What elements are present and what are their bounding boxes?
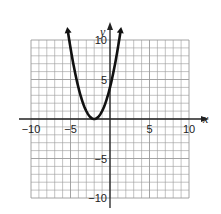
y-tick-label: −10 bbox=[88, 192, 107, 204]
axes bbox=[19, 22, 209, 208]
x-tick-label: −5 bbox=[64, 123, 77, 135]
arrowhead-icon bbox=[65, 27, 72, 33]
x-tick-label: 10 bbox=[183, 123, 195, 135]
y-axis-label: y bbox=[99, 25, 106, 39]
curve-arrowheads bbox=[65, 27, 124, 33]
coordinate-plane: −10−5510105−5−10 x y bbox=[0, 0, 221, 214]
arrowhead-icon bbox=[117, 27, 124, 33]
y-axis-arrow-icon bbox=[107, 22, 113, 30]
x-tick-label: −10 bbox=[22, 123, 41, 135]
y-tick-label: −5 bbox=[94, 153, 107, 165]
x-tick-label: 5 bbox=[146, 123, 152, 135]
x-axis-label: x bbox=[202, 112, 209, 126]
y-tick-label: 5 bbox=[101, 74, 107, 86]
